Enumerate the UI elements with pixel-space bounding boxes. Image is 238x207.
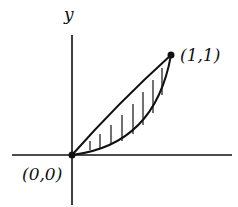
- point-1-1: [168, 52, 175, 59]
- point-origin: [69, 152, 76, 159]
- point-label-origin: (0,0): [22, 166, 62, 183]
- y-axis-label: y: [64, 6, 74, 23]
- point-label-1-1: (1,1): [180, 47, 220, 64]
